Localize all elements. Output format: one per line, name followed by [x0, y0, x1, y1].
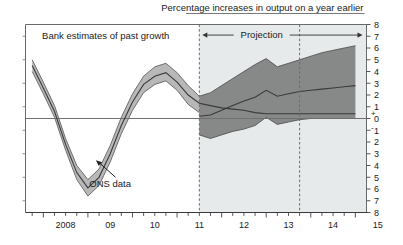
y-axis-label: 3 — [374, 149, 379, 159]
y-axis-label: 6 — [374, 43, 379, 53]
projection-annotation: Projection — [241, 29, 283, 40]
x-axis-label: 13 — [283, 220, 293, 230]
y-axis-label: 7 — [374, 196, 379, 206]
y-axis-label: 7 — [374, 32, 379, 42]
y-axis-label: 2 — [374, 90, 379, 100]
y-axis-plus-sign: + — [371, 109, 376, 118]
y-axis-label: 5 — [374, 173, 379, 183]
y-axis-label: 8 — [374, 20, 379, 30]
y-axis-label: 2 — [374, 137, 379, 147]
y-axis-label: 1 — [374, 126, 379, 136]
x-axis-label: 15 — [373, 220, 383, 230]
y-axis-label: 8 — [374, 208, 379, 218]
x-axis-label: 11 — [195, 220, 204, 230]
x-axis-label: 14 — [328, 220, 338, 230]
y-axis-label: 6 — [374, 184, 379, 194]
ons-data-annotation: ONS data — [89, 178, 131, 189]
x-axis-label: 09 — [105, 220, 115, 230]
y-axis-label: 4 — [374, 67, 379, 77]
chart-canvas: 87654321012345678+-200809101112131415Per… — [0, 0, 403, 245]
chart-title: Percentage increases in output on a year… — [161, 2, 363, 13]
x-axis-label: 12 — [239, 220, 249, 230]
x-axis-label: 2008 — [56, 220, 76, 230]
fan-chart: 87654321012345678+-200809101112131415Per… — [0, 0, 403, 245]
y-axis-label: 4 — [374, 161, 379, 171]
y-axis-label: 3 — [374, 79, 379, 89]
x-axis-label: 10 — [150, 220, 160, 230]
y-axis-minus-sign: - — [371, 123, 374, 132]
y-axis-label: 5 — [374, 55, 379, 65]
history-annotation: Bank estimates of past growth — [42, 30, 169, 41]
